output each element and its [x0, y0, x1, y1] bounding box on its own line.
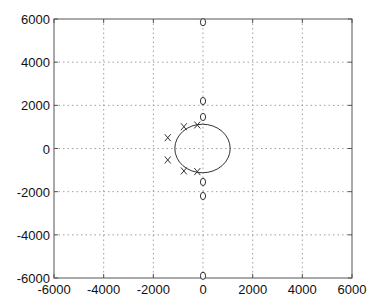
- y-axis-ticks: -6000-4000-20000200040006000: [17, 12, 352, 286]
- zero-o-marker: [200, 192, 205, 199]
- zero-o-marker: [200, 178, 205, 185]
- grid-lines: [54, 19, 352, 278]
- zero-o-marker: [200, 113, 205, 120]
- x-axis-ticks: -6000-4000-20000200040006000: [37, 19, 366, 297]
- zero-o-marker: [200, 19, 205, 26]
- x-tick-label: -4000: [87, 282, 120, 297]
- y-tick-label: 0: [43, 142, 50, 157]
- zero-o-marker: [200, 272, 205, 279]
- x-tick-label: 0: [199, 282, 206, 297]
- pole-zero-plot: -6000-4000-20000200040006000 -6000-4000-…: [0, 0, 382, 308]
- y-tick-label: -2000: [17, 185, 50, 200]
- y-tick-label: 6000: [21, 12, 50, 27]
- y-tick-label: 2000: [21, 98, 50, 113]
- pole-x-marker: [165, 134, 171, 141]
- pole-x-marker: [165, 156, 171, 163]
- x-tick-label: 6000: [338, 282, 367, 297]
- y-tick-label: -4000: [17, 228, 50, 243]
- x-tick-label: 2000: [238, 282, 267, 297]
- plot-markers: [165, 19, 230, 280]
- x-tick-label: 4000: [288, 282, 317, 297]
- y-tick-label: 4000: [21, 55, 50, 70]
- x-tick-label: -2000: [137, 282, 170, 297]
- zero-o-marker: [200, 97, 205, 104]
- y-tick-label: -6000: [17, 271, 50, 286]
